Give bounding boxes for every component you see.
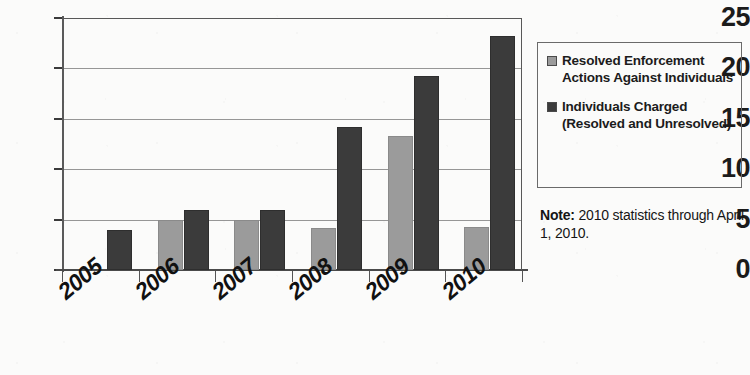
y-axis-tick-label: 25 (704, 4, 750, 31)
light-gray-swatch-icon (547, 56, 557, 66)
legend-item-resolved-enforcement-actions: Resolved Enforcement Actions Against Ind… (547, 52, 735, 87)
bar-2008-series2 (337, 127, 362, 270)
bar-2009-series1 (388, 136, 413, 270)
bar-2006-series2 (184, 210, 209, 270)
chart-legend: Resolved Enforcement Actions Against Ind… (537, 42, 742, 188)
dark-gray-swatch-icon (547, 102, 557, 112)
legend-label: Resolved Enforcement Actions Against Ind… (562, 52, 735, 87)
bar-2007-series2 (260, 210, 285, 270)
bar-2009-series2 (414, 76, 439, 270)
bar-series-container (62, 18, 522, 270)
y-axis-tick-label: 0 (704, 256, 750, 283)
bar-2010-series2 (490, 36, 515, 270)
note-label: Note: (540, 207, 575, 223)
legend-item-individuals-charged: Individuals Charged (Resolved and Unreso… (547, 98, 735, 133)
chart-note: Note: 2010 statistics through April 1, 2… (540, 206, 750, 242)
bar-2005-series2 (107, 230, 132, 270)
legend-label: Individuals Charged (Resolved and Unreso… (562, 98, 735, 133)
x-axis-tick-mark (522, 271, 523, 282)
